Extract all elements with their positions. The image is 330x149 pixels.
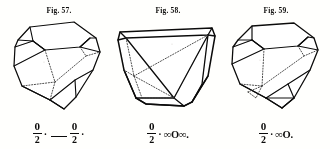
- formula-59: 0 2 · ∞O.: [222, 121, 330, 145]
- formula-57-dot-1: ·: [43, 130, 48, 140]
- formula-59-denominator: 2: [260, 135, 267, 145]
- crystal-figure-59-svg: [222, 14, 330, 112]
- formula-57-denominator-1: 2: [34, 135, 41, 145]
- crystal-57-speck: [43, 61, 44, 62]
- formula-58-fraction: 0 2: [147, 121, 156, 145]
- crystal-drawing-57: [0, 14, 118, 112]
- formula-58-numerator: 0: [148, 121, 156, 132]
- formula-59-symbol: ∞O.: [275, 130, 293, 141]
- formula-58-symbol: ∞O∞.: [164, 130, 189, 141]
- formula-57-fraction-2: 0 2: [70, 121, 79, 145]
- formula-58-dot: ·: [157, 130, 162, 140]
- formula-59-fraction: 0 2: [259, 121, 268, 145]
- crystal-59-hidden-g: [248, 92, 256, 98]
- formula-57-numerator-2: 0: [71, 121, 79, 132]
- formula-59-dot: ·: [269, 130, 274, 140]
- formula-58-denominator: 2: [148, 135, 155, 145]
- crystal-57-outline: [14, 22, 100, 109]
- formula-59-numerator: 0: [260, 121, 268, 132]
- formula-57-rule: [51, 136, 67, 137]
- figure-block-57: Fig. 57.: [0, 0, 118, 149]
- crystal-figure-57-svg: [0, 14, 118, 112]
- crystal-59-speck: [259, 59, 260, 60]
- crystal-58-speck: [171, 43, 172, 44]
- crystal-59-outline: [232, 23, 318, 108]
- formula-57-fraction-1: 0 2: [33, 121, 42, 145]
- crystal-drawing-58: [112, 14, 224, 112]
- figure-plate: Fig. 57.: [0, 0, 330, 149]
- figure-block-58: Fig. 58.: [112, 0, 224, 149]
- crystal-drawing-59: [222, 14, 330, 112]
- crystal-figure-58-svg: [112, 14, 224, 112]
- formula-57: 0 2 · 0 2 ·: [0, 121, 118, 145]
- formula-57-dot-2: ·: [80, 130, 85, 140]
- formula-58: 0 2 · ∞O∞.: [112, 121, 224, 145]
- formula-57-denominator-2: 2: [71, 135, 78, 145]
- figure-block-59: Fig. 59.: [222, 0, 330, 149]
- formula-57-numerator-1: 0: [33, 121, 41, 132]
